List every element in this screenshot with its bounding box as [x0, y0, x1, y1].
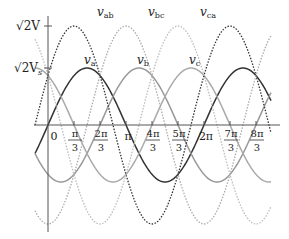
- x-tick-numerator: 7π: [225, 128, 238, 139]
- label-v-ca: vca: [200, 5, 216, 20]
- series-labels: vavbvcvabvbcvca: [84, 5, 216, 68]
- x-ticks: 0π32π3π4π35π32π7π38π3: [51, 121, 265, 153]
- x-tick-label: 0: [51, 130, 58, 143]
- label-v-c: vc: [189, 53, 201, 68]
- label-v-b: vb: [137, 53, 149, 68]
- x-tick-label: π: [124, 130, 131, 143]
- x-tick-numerator: π: [72, 128, 79, 139]
- x-tick-denominator: 3: [228, 142, 234, 153]
- three-phase-voltage-chart: 0π32π3π4π35π32π7π38π3 vavbvcvabvbcvca √2…: [0, 0, 289, 239]
- y-label-phase-amplitude: √2V: [14, 61, 38, 75]
- x-tick-numerator: 4π: [147, 128, 160, 139]
- y-label-line-amplitude: √2V: [16, 19, 40, 33]
- label-v-bc: vbc: [148, 5, 165, 20]
- x-tick-denominator: 3: [98, 142, 104, 153]
- x-tick-denominator: 3: [176, 142, 182, 153]
- x-tick-numerator: 2π: [95, 128, 108, 139]
- x-tick-denominator: 3: [150, 142, 156, 153]
- label-v-a: va: [84, 53, 96, 68]
- x-tick-numerator: 5π: [173, 128, 186, 139]
- x-tick-denominator: 3: [72, 142, 78, 153]
- label-v-ab: vab: [97, 5, 114, 20]
- x-tick-numerator: 8π: [251, 128, 264, 139]
- x-tick-label: 2π: [199, 130, 213, 143]
- y-label-phase-amplitude-sub: s: [38, 68, 42, 77]
- x-tick-denominator: 3: [254, 142, 260, 153]
